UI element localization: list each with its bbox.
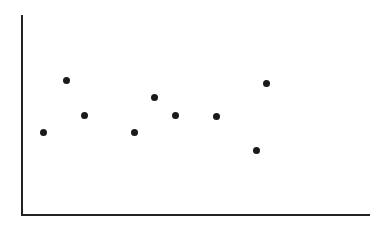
plot-area — [0, 0, 376, 235]
data-point — [172, 112, 179, 119]
data-point — [131, 129, 138, 136]
data-points-layer — [0, 0, 376, 235]
scatter-plot-figure — [0, 0, 376, 235]
data-point — [151, 94, 158, 101]
data-point — [63, 77, 70, 84]
data-point — [263, 80, 270, 87]
data-point — [213, 113, 220, 120]
data-point — [81, 112, 88, 119]
data-point — [253, 147, 260, 154]
data-point — [40, 129, 47, 136]
